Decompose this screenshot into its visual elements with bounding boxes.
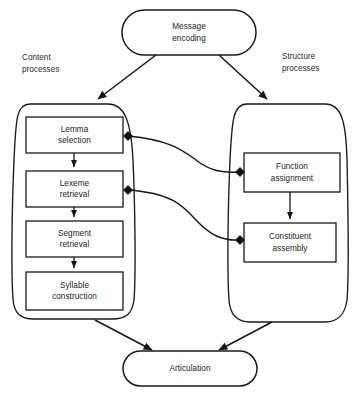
edge-lemma-to-function-curve bbox=[128, 136, 240, 172]
node-lexeme-retrieval[interactable] bbox=[26, 171, 123, 207]
edge-lexeme-to-constituent-curve bbox=[128, 190, 240, 240]
diagram-canvas: Message encoding Content processes Struc… bbox=[0, 0, 363, 401]
node-message-encoding[interactable] bbox=[122, 10, 256, 55]
diamond-marker-function bbox=[236, 168, 245, 177]
edge-structure-to-articulation bbox=[219, 322, 272, 350]
diamond-marker-constituent bbox=[236, 236, 245, 245]
diamond-marker-lexeme bbox=[124, 186, 133, 195]
edge-content-to-articulation bbox=[95, 320, 152, 350]
group-label-content-processes: Content processes bbox=[22, 52, 102, 76]
edge-message-to-content bbox=[98, 55, 156, 99]
structure-processes-container bbox=[228, 104, 348, 322]
group-label-structure-processes: Structure processes bbox=[282, 51, 362, 75]
node-function-assignment[interactable] bbox=[244, 153, 340, 192]
node-constituent-assembly[interactable] bbox=[244, 223, 336, 262]
node-lemma-selection[interactable] bbox=[26, 117, 123, 153]
node-articulation[interactable] bbox=[123, 351, 257, 386]
node-syllable-construction[interactable] bbox=[26, 272, 123, 310]
edge-message-to-structure bbox=[219, 55, 267, 99]
node-segment-retrieval[interactable] bbox=[26, 221, 123, 257]
